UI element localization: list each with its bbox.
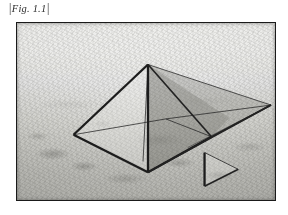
small-triangle-face xyxy=(205,153,239,187)
figure-caption: |Fig. 1.1| xyxy=(9,2,49,15)
figure-frame xyxy=(16,22,276,201)
pyramid-face-left xyxy=(74,65,148,173)
pyramid-wireframe-svg xyxy=(17,23,275,200)
figure-image xyxy=(17,23,275,200)
figure-page: |Fig. 1.1| xyxy=(0,0,288,215)
caption-bracket-right: | xyxy=(47,2,49,14)
caption-label: Fig. 1.1 xyxy=(11,3,47,14)
geometry-overlay xyxy=(17,23,275,200)
